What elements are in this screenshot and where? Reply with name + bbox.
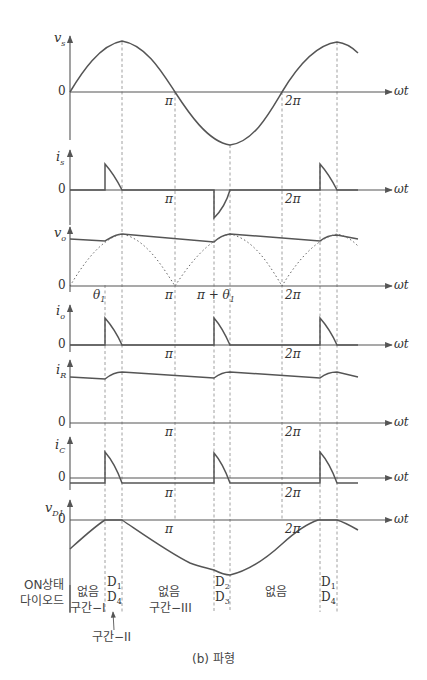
vs-curve [70, 41, 358, 145]
cell-d1-d4-a: D1 [107, 575, 122, 591]
iC-tick-2pi: 2π [285, 486, 301, 500]
cell-interval-1: 구간−I [70, 598, 106, 615]
vs-tick-pi: π [165, 94, 173, 108]
on-state-label-line1: ON상태 [24, 575, 64, 592]
io-tick-pi: π [165, 347, 173, 361]
io-curve [70, 318, 358, 345]
io-zero: 0 [58, 337, 66, 351]
on-state-label-line2: 다이오드 [20, 591, 64, 608]
vD1-tick-pi: π [165, 522, 173, 536]
vs-tick-2pi: 2π [285, 94, 301, 108]
vs-ylabel: vs [54, 30, 65, 48]
vo-zero: 0 [58, 278, 66, 292]
iC-xlabel: ωt [394, 470, 409, 484]
vo-xlabel: ωt [394, 278, 409, 292]
vo-tick-pi: π [165, 288, 173, 302]
iR-tick-pi: π [165, 425, 173, 439]
cell-none-1: 없음 [77, 582, 99, 599]
io-xlabel: ωt [394, 337, 409, 351]
vs-xlabel: ωt [394, 84, 409, 98]
cell-d2-d3-b: D3 [215, 590, 230, 606]
vD1-xlabel: ωt [394, 512, 409, 526]
is-zero: 0 [58, 182, 66, 196]
vo-tick-pi-plus-theta1: π + θ1 [197, 288, 235, 304]
cell-d2-d3-a: D2 [215, 575, 230, 591]
is-tick-pi: π [165, 192, 173, 206]
iR-xlabel: ωt [394, 415, 409, 429]
is-xlabel: ωt [394, 182, 409, 196]
iR-ylabel: iR [56, 362, 66, 380]
interval-2-label: 구간−II [92, 627, 131, 644]
iR-tick-2pi: 2π [285, 425, 301, 439]
io-tick-2pi: 2π [285, 347, 301, 361]
cell-interval-3: 구간−III [149, 598, 192, 615]
x-axes [70, 92, 392, 520]
vD1-tick-2pi: 2π [285, 522, 301, 536]
is-ylabel: is [56, 149, 64, 167]
iC-tick-pi: π [165, 486, 173, 500]
iC-ylabel: iC [55, 437, 65, 455]
io-ylabel: io [56, 303, 65, 321]
cell-d1-d4-b: D4 [107, 590, 122, 606]
vo-tick-2pi: 2π [285, 288, 301, 302]
cell-none-3: 없음 [265, 582, 287, 599]
is-curve [70, 164, 358, 218]
cell-d1-d4-c: D1 [321, 575, 336, 591]
is-tick-2pi: 2π [285, 192, 301, 206]
cell-none-2: 없음 [158, 582, 180, 599]
iR-zero: 0 [58, 415, 66, 429]
vo-ylabel: vo [54, 225, 66, 243]
vo-tick-theta1: θ1 [93, 288, 105, 304]
iC-zero: 0 [58, 470, 66, 484]
vs-zero: 0 [58, 84, 66, 98]
figure-caption: (b) 파형 [192, 649, 235, 666]
vD1-zero: 0 [58, 512, 66, 526]
cell-d1-d4-d: D4 [321, 590, 336, 606]
